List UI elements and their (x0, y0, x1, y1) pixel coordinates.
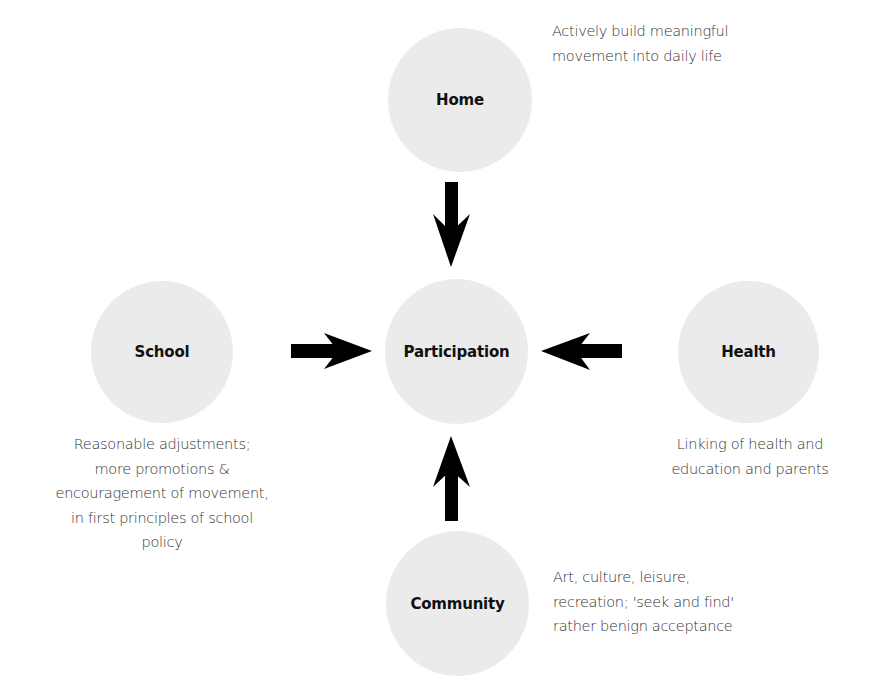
arrow-right-icon (291, 333, 372, 369)
community-description-line: Art, culture, leisure, (553, 565, 734, 590)
health-description: Linking of health and education and pare… (620, 432, 870, 481)
arrow-up-icon (433, 436, 470, 521)
community-description-line: rather benign acceptance (553, 614, 734, 639)
arrows-layer (0, 0, 870, 696)
arrow-left-icon (541, 333, 622, 370)
arrow-down-icon (433, 182, 470, 267)
school-description-line: policy (12, 530, 312, 555)
community-description: Art, culture, leisure, recreation; 'seek… (553, 565, 734, 639)
health-description-line: Linking of health and (620, 432, 870, 457)
community-description-line: recreation; 'seek and find' (553, 590, 734, 615)
home-description: Actively build meaningful movement into … (552, 19, 728, 68)
school-description-line: Reasonable adjustments; (12, 432, 312, 457)
school-description-line: more promotions & (12, 457, 312, 482)
school-description: Reasonable adjustments; more promotions … (12, 432, 312, 555)
health-description-line: education and parents (620, 457, 870, 482)
home-description-line: movement into daily life (552, 44, 728, 69)
school-description-line: encouragement of movement, (12, 481, 312, 506)
school-description-line: in first principles of school (12, 506, 312, 531)
home-description-line: Actively build meaningful (552, 19, 728, 44)
